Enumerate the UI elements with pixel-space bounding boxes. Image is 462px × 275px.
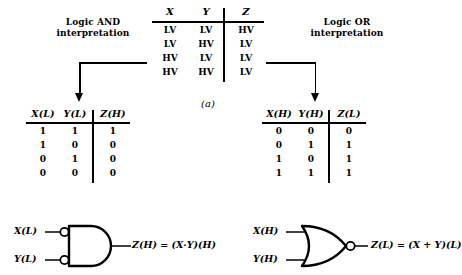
cell-x: HV: [152, 67, 188, 78]
cell-x: 0: [26, 154, 60, 165]
and-gate-body: [69, 226, 111, 266]
or-gate-body: [302, 226, 346, 266]
right-arrow-horizontal-segment: [266, 62, 316, 64]
left-arrowhead-icon: [75, 93, 83, 102]
right-interpretation-line2: interpretation: [292, 28, 402, 39]
left-arrow-vertical-segment: [79, 62, 81, 95]
left-table-header-y: Y(L): [58, 108, 92, 119]
cell-z: 0: [96, 140, 130, 151]
voltage-table-header-x: X: [152, 6, 188, 17]
output-bubble-icon: [346, 242, 354, 250]
right-gate-input-label-x: X(H): [253, 225, 278, 236]
right-arrow-vertical-segment: [315, 62, 317, 95]
voltage-table-header-z: Z: [228, 6, 264, 17]
right-truth-table: X(H) Y(H) Z(L) 0 0 0 0 1 1 1 0 1 1 1 1: [262, 108, 366, 193]
right-table-header-y: Y(H): [294, 108, 328, 119]
right-table-header-z: Z(L): [332, 108, 366, 119]
left-table-column-divider: [92, 110, 94, 183]
cell-y: 1: [294, 168, 328, 179]
cell-y: LV: [188, 25, 224, 36]
input-bubble-icon-y: [60, 256, 68, 264]
right-gate-diagram: X(H) Y(H) Z(L) = (X + Y)(L): [253, 218, 458, 274]
left-table-header-z: Z(H): [96, 108, 130, 119]
cell-z: LV: [228, 53, 264, 64]
voltage-table-header-y: Y: [188, 6, 224, 17]
right-interpretation-line1: Logic OR: [292, 17, 402, 28]
left-table-header-x: X(L): [26, 108, 60, 119]
input-bubble-icon-x: [60, 228, 68, 236]
cell-x: 0: [262, 140, 296, 151]
cell-x: 0: [26, 168, 60, 179]
cell-x: 1: [262, 154, 296, 165]
left-interpretation-line1: Logic AND: [38, 17, 148, 28]
cell-y: 0: [294, 126, 328, 137]
cell-x: 1: [262, 168, 296, 179]
cell-y: 1: [294, 140, 328, 151]
cell-z: 1: [96, 126, 130, 137]
voltage-table: X Y Z LV LV HV LV HV LV HV LV LV HV HV L…: [152, 6, 264, 94]
cell-z: 1: [332, 168, 366, 179]
cell-x: 1: [26, 126, 60, 137]
cell-z: LV: [228, 67, 264, 78]
cell-z: 1: [332, 154, 366, 165]
cell-x: LV: [152, 39, 188, 50]
voltage-table-header-rule: [152, 21, 264, 23]
cell-y: HV: [188, 39, 224, 50]
right-table-column-divider: [328, 110, 330, 183]
cell-y: HV: [188, 67, 224, 78]
left-truth-table: X(L) Y(L) Z(H) 1 1 1 1 0 0 0 1 0 0 0 0: [26, 108, 130, 193]
left-interpretation-label: Logic AND interpretation: [38, 17, 148, 39]
cell-z: HV: [228, 25, 264, 36]
cell-x: LV: [152, 25, 188, 36]
left-gate-output-expression: Z(H) = (X·Y)(H): [132, 239, 216, 250]
cell-x: HV: [152, 53, 188, 64]
cell-x: 0: [262, 126, 296, 137]
left-table-header-rule: [26, 122, 130, 124]
left-gate-diagram: X(L) Y(L) Z(H) = (X·Y)(H): [14, 218, 214, 274]
cell-y: 1: [58, 154, 92, 165]
right-arrowhead-icon: [311, 93, 319, 102]
cell-y: LV: [188, 53, 224, 64]
cell-x: 1: [26, 140, 60, 151]
cell-z: 0: [96, 154, 130, 165]
left-gate-input-label-y: Y(L): [14, 253, 36, 264]
cell-z: 0: [332, 126, 366, 137]
right-table-header-x: X(H): [262, 108, 296, 119]
cell-y: 0: [294, 154, 328, 165]
right-interpretation-label: Logic OR interpretation: [292, 17, 402, 39]
left-arrow-horizontal-segment: [79, 62, 147, 64]
cell-z: LV: [228, 39, 264, 50]
cell-y: 0: [58, 168, 92, 179]
cell-z: 1: [332, 140, 366, 151]
cell-z: 0: [96, 168, 130, 179]
cell-y: 1: [58, 126, 92, 137]
right-gate-input-label-y: Y(H): [253, 253, 278, 264]
left-gate-input-label-x: X(L): [14, 225, 37, 236]
cell-y: 0: [58, 140, 92, 151]
right-table-header-rule: [262, 122, 366, 124]
right-gate-output-expression: Z(L) = (X + Y)(L): [371, 239, 462, 250]
figure-caption: (a): [188, 98, 228, 109]
left-interpretation-line2: interpretation: [38, 28, 148, 39]
